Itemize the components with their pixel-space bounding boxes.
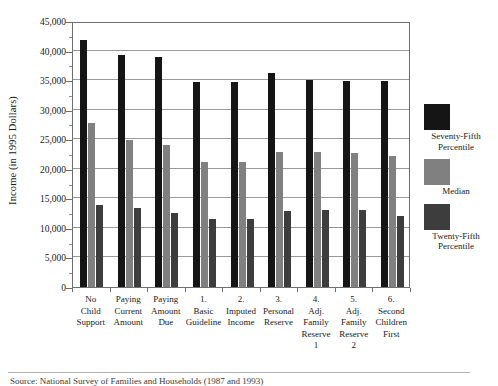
x-tick-mark xyxy=(260,288,261,292)
bar xyxy=(201,162,208,287)
chart-figure: Income (in 1995 Dollars) 05,00010,00015,… xyxy=(0,0,498,386)
legend-item: Seventy-Fifth Percentile xyxy=(420,104,496,152)
x-tick-mark xyxy=(410,288,411,292)
footer-divider xyxy=(8,372,470,373)
bar xyxy=(322,210,329,287)
bar xyxy=(389,156,396,287)
bar xyxy=(239,162,246,287)
bar-group xyxy=(155,23,178,287)
legend-swatch xyxy=(424,104,450,130)
bar-group xyxy=(268,23,291,287)
bar xyxy=(118,55,125,287)
y-axis-title-text: Income (in 1995 Dollars) xyxy=(7,96,18,205)
y-axis-title: Income (in 1995 Dollars) xyxy=(2,0,22,300)
bar xyxy=(276,152,283,287)
bar xyxy=(314,152,321,287)
y-tick-label: 20,000 xyxy=(40,165,66,175)
y-tick-label: 5,000 xyxy=(45,253,66,263)
y-tick-label: 30,000 xyxy=(40,106,66,116)
bar xyxy=(155,57,162,287)
source-note: Source: National Survey of Families and … xyxy=(10,376,470,386)
x-tick-label: 6. Second Children First xyxy=(367,294,415,340)
y-tick-label: 25,000 xyxy=(40,135,66,145)
bar xyxy=(359,210,366,287)
bar-group xyxy=(306,23,329,287)
bar xyxy=(80,40,87,287)
legend-swatch xyxy=(424,159,450,185)
y-tick-label: 10,000 xyxy=(40,224,66,234)
x-tick-mark xyxy=(147,288,148,292)
bar xyxy=(306,80,313,287)
bar-group xyxy=(80,23,103,287)
bar xyxy=(96,205,103,287)
bar-group xyxy=(118,23,141,287)
bar xyxy=(171,213,178,287)
x-tick-mark xyxy=(222,288,223,292)
legend-swatch xyxy=(424,204,450,230)
x-tick-mark xyxy=(72,288,73,292)
y-tick-label: 35,000 xyxy=(40,76,66,86)
legend-label: Twenty-Fifth Percentile xyxy=(420,231,492,252)
plot-area xyxy=(72,22,410,288)
bar xyxy=(284,211,291,287)
bar xyxy=(231,82,238,287)
bar-group xyxy=(343,23,366,287)
bar xyxy=(351,153,358,287)
bar xyxy=(88,123,95,287)
x-tick-mark xyxy=(372,288,373,292)
bar xyxy=(397,216,404,287)
bar xyxy=(247,219,254,287)
bar-group xyxy=(193,23,216,287)
legend-item: Median xyxy=(420,159,496,197)
bar-group xyxy=(381,23,404,287)
x-tick-mark xyxy=(335,288,336,292)
bar xyxy=(193,82,200,287)
x-tick-mark xyxy=(110,288,111,292)
legend-label: Median xyxy=(420,186,492,197)
bar xyxy=(268,73,275,287)
bar-group xyxy=(231,23,254,287)
y-tick-label: 15,000 xyxy=(40,194,66,204)
bar xyxy=(126,140,133,287)
y-tick-label: 40,000 xyxy=(40,47,66,57)
y-tick-label: 45,000 xyxy=(40,17,66,27)
bar xyxy=(343,81,350,287)
chart-legend: Seventy-Fifth PercentileMedianTwenty-Fif… xyxy=(420,104,496,259)
bar xyxy=(381,81,388,287)
x-tick-mark xyxy=(185,288,186,292)
legend-item: Twenty-Fifth Percentile xyxy=(420,204,496,252)
x-tick-mark xyxy=(297,288,298,292)
bar xyxy=(134,208,141,287)
bar xyxy=(163,145,170,287)
legend-label: Seventy-Fifth Percentile xyxy=(420,131,492,152)
bar xyxy=(209,219,216,287)
